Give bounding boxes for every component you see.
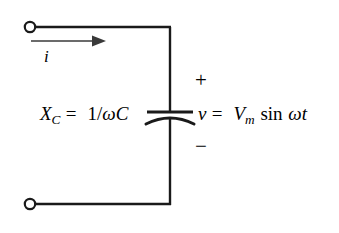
- reactance-numerator: 1/: [88, 103, 103, 124]
- voltage-time: t: [302, 103, 307, 124]
- reactance-equals: =: [60, 103, 81, 124]
- capacitive-reactance-formula: XC=1/ωC: [40, 104, 128, 126]
- circuit-diagram-figure: i + − XC=1/ωC v=Vmsinωt: [0, 0, 339, 233]
- reactance-omega: ω: [102, 103, 115, 124]
- terminal-top: [25, 22, 35, 32]
- terminal-bottom: [25, 199, 35, 209]
- reactance-capacitance: C: [116, 103, 129, 124]
- current-label: i: [44, 48, 49, 65]
- reactance-symbol: X: [40, 103, 52, 124]
- polarity-plus-label: +: [195, 70, 207, 91]
- voltage-equals: =: [206, 103, 227, 124]
- voltage-sin-function: sin: [260, 103, 282, 124]
- polarity-minus-label: −: [195, 136, 207, 157]
- voltage-formula: v=Vmsinωt: [198, 104, 307, 126]
- current-arrow-head: [92, 36, 106, 47]
- voltage-amplitude: V: [233, 103, 245, 124]
- voltage-omega: ω: [288, 103, 301, 124]
- voltage-subscript: m: [245, 112, 255, 127]
